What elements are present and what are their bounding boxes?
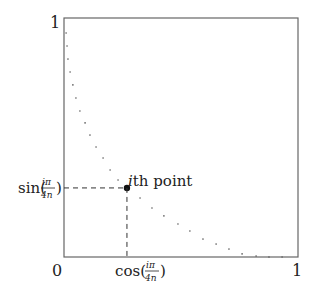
points-group [65, 32, 283, 258]
curve-point [151, 207, 153, 209]
curve-point [66, 45, 68, 47]
cos-numerator: iπ [146, 260, 156, 270]
sin-close: ) [56, 179, 62, 197]
curve-point [72, 84, 74, 86]
curve-point [79, 110, 81, 112]
curve-point [139, 197, 141, 199]
diagram-canvas: 1 0 1 ith point sin( iπ 4n ) cos( iπ 4n … [0, 0, 318, 296]
curve-point [84, 122, 86, 124]
sin-denominator: 4n [40, 190, 53, 200]
x-axis-right-label: 1 [292, 261, 302, 280]
curve-point [202, 238, 204, 240]
curve-point [189, 230, 191, 232]
curve-point [95, 146, 97, 148]
curve-point [281, 256, 283, 258]
unit-square [64, 18, 298, 257]
curve-point [255, 255, 257, 257]
curve-point [163, 215, 165, 217]
curve-point [215, 243, 217, 245]
curve-point [117, 179, 119, 181]
curve-point [109, 169, 111, 171]
curve-point [241, 253, 243, 255]
curve-point [177, 223, 179, 225]
cos-close: ) [160, 262, 166, 280]
curve-point [65, 32, 67, 34]
y-axis-top-label: 1 [50, 13, 60, 32]
curve-point [69, 71, 71, 73]
curve-point [228, 248, 230, 250]
point-text: th point [133, 172, 193, 190]
sin-numerator: iπ [42, 177, 52, 187]
cos-fn: cos( [115, 262, 146, 280]
sin-label: sin( iπ 4n ) [18, 177, 62, 200]
ith-point-label: ith point [128, 172, 192, 190]
origin-label: 0 [52, 261, 62, 280]
curve-point [102, 157, 104, 159]
curve-point [268, 256, 270, 258]
curve-point [75, 97, 77, 99]
curve-point [67, 58, 69, 60]
cos-denominator: 4n [144, 273, 157, 283]
cos-label: cos( iπ 4n ) [115, 260, 166, 283]
curve-point [89, 134, 91, 136]
